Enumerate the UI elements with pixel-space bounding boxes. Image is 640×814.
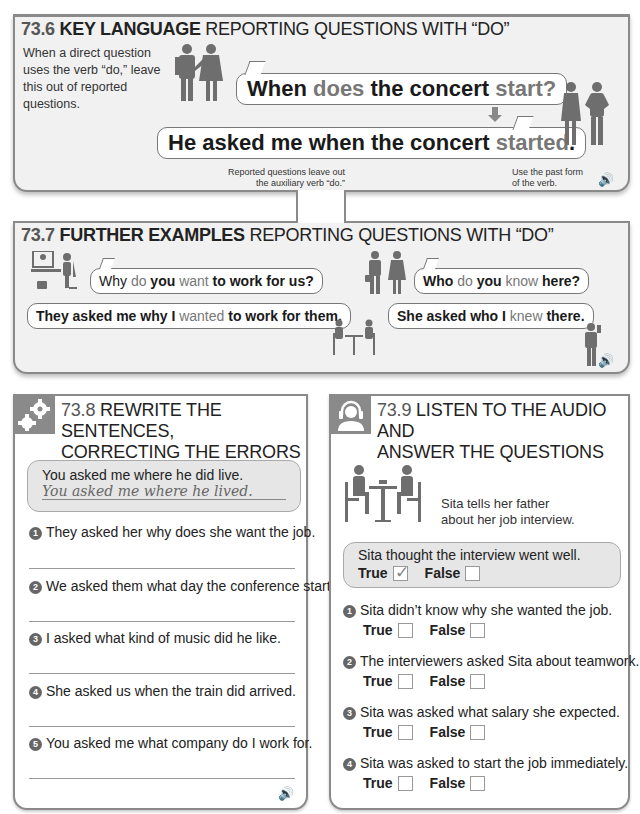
exercise-item-5: 5You asked me what company do I work for… — [29, 735, 312, 751]
question-item-4: 4Sita was asked to start the job immedia… — [343, 755, 628, 771]
true-checkbox-checked[interactable] — [393, 566, 408, 581]
note-auxiliary: Reported questions leave out the auxilia… — [215, 167, 345, 189]
true-checkbox[interactable] — [398, 776, 413, 791]
example-2-reported-bubble: She asked who I knew there. — [388, 303, 594, 329]
true-checkbox[interactable] — [398, 623, 413, 638]
exercise-item-3: 3I asked what kind of music did he like. — [29, 630, 281, 646]
true-false-row-3: True False — [363, 724, 497, 740]
section-73-8-exercise: 73.8 REWRITE THE SENTENCES, CORRECTING T… — [13, 394, 308, 810]
reported-question-bubble: He asked me when the concert started. — [157, 127, 586, 159]
false-checkbox[interactable] — [470, 623, 485, 638]
scenario-caption: Sita tells her father about her job inte… — [441, 496, 575, 528]
false-checkbox[interactable] — [465, 566, 480, 581]
example-1-direct-bubble: Why do you want to work for us? — [90, 268, 323, 294]
worked-example: You asked me where he did live. You aske… — [27, 460, 301, 512]
true-false-row-4: True False — [363, 775, 497, 791]
false-checkbox[interactable] — [470, 725, 485, 740]
exercise-item-2: 2We asked them what day the conference s… — [29, 578, 334, 594]
section-73-7-title: 73.7 FURTHER EXAMPLES REPORTING QUESTION… — [21, 225, 553, 246]
true-false-row-2: True False — [363, 673, 497, 689]
two-people-briefcase-icon — [365, 251, 409, 297]
section-73-7-panel: 73.7 FURTHER EXAMPLES REPORTING QUESTION… — [13, 221, 630, 374]
answer-line-5[interactable] — [29, 778, 295, 779]
section-73-8-title: 73.8 REWRITE THE SENTENCES, CORRECTING T… — [61, 400, 306, 463]
people-at-table-icon — [331, 319, 377, 357]
question-item-1: 1Sita didn’t know why she wanted the job… — [343, 602, 612, 618]
panel-connector — [296, 190, 346, 223]
audio-speaker-icon[interactable]: 🔊 — [598, 353, 614, 368]
question-item-3: 3Sita was asked what salary she expected… — [343, 704, 620, 720]
false-checkbox[interactable] — [470, 674, 485, 689]
direct-question-bubble: When does the concert start? — [236, 73, 567, 105]
section-73-9-exercise: 73.9 LISTEN TO THE AUDIO AND ANSWER THE … — [329, 394, 630, 810]
audio-speaker-icon[interactable]: 🔊 — [278, 786, 294, 801]
section-73-6-title: 73.6 KEY LANGUAGE REPORTING QUESTIONS WI… — [21, 19, 509, 40]
intro-text: When a direct question uses the verb “do… — [23, 45, 163, 113]
true-checkbox[interactable] — [398, 674, 413, 689]
people-at-table-icon — [345, 464, 421, 524]
interview-desk-icon — [31, 251, 83, 293]
false-checkbox[interactable] — [470, 776, 485, 791]
answer-line-4[interactable] — [29, 726, 295, 727]
arrow-down-icon — [492, 107, 498, 115]
section-73-9-title: 73.9 LISTEN TO THE AUDIO AND ANSWER THE … — [377, 400, 628, 463]
exercise-item-4: 4She asked us when the train did arrived… — [29, 683, 296, 699]
exercise-item-1: 1They asked her why does she want the jo… — [29, 524, 315, 540]
two-people-icon — [173, 43, 243, 103]
true-false-row-1: True False — [363, 622, 497, 638]
two-people-icon — [557, 81, 617, 149]
worked-example: Sita thought the interview went well. Tr… — [343, 542, 621, 588]
audio-speaker-icon[interactable]: 🔊 — [598, 172, 614, 187]
example-1-reported-bubble: They asked me why I wanted to work for t… — [27, 303, 351, 329]
answer-line-2[interactable] — [29, 621, 295, 622]
answer-line-1[interactable] — [29, 568, 295, 569]
gears-badge — [15, 396, 55, 434]
headphones-badge — [331, 396, 371, 434]
example-2-direct-bubble: Who do you know here? — [414, 268, 589, 294]
note-past-form: Use the past form of the verb. — [512, 167, 592, 189]
section-73-6-panel: 73.6 KEY LANGUAGE REPORTING QUESTIONS WI… — [13, 14, 630, 192]
gear-icon — [18, 399, 52, 431]
question-item-2: 2The interviewers asked Sita about teamw… — [343, 653, 639, 669]
headphones-listener-icon — [334, 399, 368, 431]
answer-line-3[interactable] — [29, 673, 295, 674]
true-checkbox[interactable] — [398, 725, 413, 740]
